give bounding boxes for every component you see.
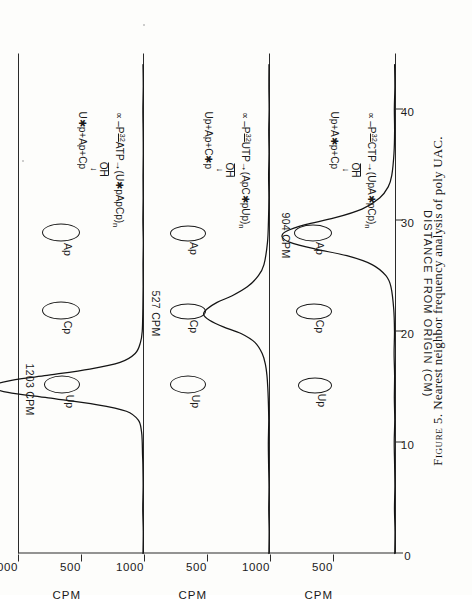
- scheme-3-hydroxide: OH: [350, 111, 362, 228]
- chart-area: Up Cp Ap 1203 CPM ∝ –P32ATP→(U✱pApCp)n O…: [18, 53, 396, 553]
- x-tick-label-0: 0: [404, 549, 411, 561]
- y-tick-500-panel-2: [207, 554, 208, 561]
- y-axis-ticks: 5001000CPM5001000CPM5001000CPM: [18, 553, 396, 554]
- caption-number: Figure 5.: [431, 413, 445, 465]
- y-tick-500-panel-1: [81, 554, 82, 561]
- x-tick-label-10: 10: [401, 438, 415, 450]
- spot-cp: [42, 301, 80, 319]
- spot-label-ap: Ap: [314, 242, 326, 255]
- spot-up: [298, 377, 332, 393]
- y-tick-label-500-panel-3: 500: [312, 560, 333, 572]
- reaction-scheme-2: ∝ –P32UTP→(ApC✱pUp)n OH ↓ Up+Ap+C✱p: [203, 111, 252, 228]
- scheme-2-equation: ∝ –P32UTP→(ApC✱pUp)n: [236, 111, 252, 228]
- y-tick-label-500-panel-1: 500: [60, 560, 81, 572]
- spot-ap: [42, 223, 80, 241]
- scheme-3-equation: ∝ –P32CTP→(UpA✱pCp)n: [362, 111, 378, 228]
- scheme-1-equation: ∝ –P32ATP→(U✱pApCp)n: [110, 111, 126, 227]
- y-tick-1000-panel-3: [270, 554, 271, 561]
- reaction-scheme-1: ∝ –P32ATP→(U✱pApCp)n OH ↓ U✱p+Ap+Cp: [77, 111, 126, 227]
- spot-up: [44, 375, 80, 393]
- spot-label-cp: Cp: [188, 319, 200, 332]
- spot-cp: [170, 303, 206, 319]
- panel-3: Up Cp Ap 904 CPM ∝ –P32CTP→(UpA✱pCp)n OH…: [270, 53, 396, 553]
- spot-label-up: Up: [190, 394, 202, 407]
- caption-text: Nearest neighbor frequency analysis of p…: [430, 136, 445, 410]
- spot-label-cp: Cp: [62, 320, 74, 333]
- spot-label-cp: Cp: [314, 319, 326, 332]
- y-tick-label-500-panel-2: 500: [186, 560, 207, 572]
- scheme-2-products: Up+Ap+C✱p: [203, 111, 215, 228]
- x-tick-label-40: 40: [401, 105, 415, 117]
- y-axis-title-panel-3: CPM: [304, 588, 333, 600]
- scheme-1-hydroxide: OH: [98, 111, 110, 227]
- spot-label-up: Up: [316, 393, 328, 406]
- y-tick-1000-panel-2: [144, 554, 145, 561]
- y-axis-title-panel-1: CPM: [52, 588, 81, 600]
- y-axis-title-panel-2: CPM: [178, 588, 207, 600]
- x-tick-label-20: 20: [401, 327, 415, 339]
- panel-2: Up Cp Ap 527 CPM ∝ –P32UTP→(ApC✱pUp)n OH…: [144, 53, 270, 553]
- spot-label-ap: Ap: [62, 243, 74, 256]
- spot-label-up: Up: [64, 394, 76, 407]
- scheme-2-arrow: ↓: [215, 111, 223, 228]
- x-tick-0: [396, 552, 403, 553]
- x-axis-ticks: 010203040: [396, 53, 422, 553]
- reaction-scheme-3: ∝ –P32CTP→(UpA✱pCp)n OH ↓ Up+A✱p+Cp: [329, 111, 378, 228]
- spot-cp: [296, 303, 332, 319]
- x-tick-label-30: 30: [401, 216, 415, 228]
- panel-1: Up Cp Ap 1203 CPM ∝ –P32ATP→(U✱pApCp)n O…: [18, 53, 144, 553]
- scheme-1-products: U✱p+Ap+Cp: [77, 111, 89, 227]
- y-tick-1000-panel-1: [18, 554, 19, 561]
- spot-ap: [170, 225, 206, 241]
- scheme-2-hydroxide: OH: [224, 111, 236, 228]
- peak-callout-527: 527 CPM: [150, 290, 162, 336]
- peak-callout-904: 904 CPM: [280, 212, 292, 258]
- scheme-3-products: Up+A✱p+Cp: [329, 111, 341, 228]
- spot-ap: [294, 224, 332, 241]
- y-tick-label-1000-panel-1: 1000: [0, 560, 18, 572]
- y-tick-label-1000-panel-3: 1000: [242, 560, 270, 572]
- figure-caption: Figure 5. Nearest neighbor frequency ana…: [430, 48, 446, 553]
- y-tick-500-panel-3: [333, 554, 334, 561]
- scheme-3-arrow: ↓: [341, 111, 349, 228]
- spot-up: [170, 375, 206, 393]
- peak-callout-1203: 1203 CPM: [24, 363, 36, 415]
- spot-label-ap: Ap: [188, 242, 200, 255]
- scheme-1-arrow: ↓: [89, 111, 97, 227]
- y-tick-label-1000-panel-2: 1000: [116, 560, 144, 572]
